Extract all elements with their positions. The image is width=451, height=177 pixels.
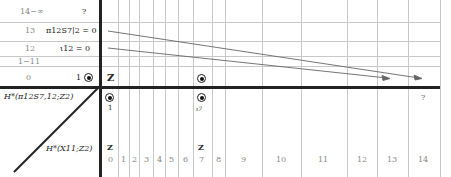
generator-dot — [197, 74, 206, 83]
corner-label-bottom: H*(X11;Z2) — [46, 145, 92, 153]
row-degree-label: 12 — [25, 45, 35, 53]
generator-label: ι7 — [196, 106, 202, 112]
column-label: 1 — [121, 156, 126, 164]
column-label: 7 — [199, 156, 204, 164]
column-label: 8 — [216, 156, 221, 164]
column-label: 6 — [183, 156, 188, 164]
column-label: 14 — [418, 156, 428, 164]
column-label: 4 — [157, 156, 162, 164]
row-entry: 1 — [76, 74, 81, 82]
generator-dot — [105, 93, 114, 102]
generator-dot — [197, 93, 206, 102]
row-degree-label: 13 — [25, 27, 35, 35]
row-entry: ? — [82, 8, 86, 16]
column-label: 2 — [132, 156, 137, 164]
column-label: 11 — [318, 156, 328, 164]
column-label: 0 — [108, 156, 113, 164]
column-label: 10 — [276, 156, 286, 164]
row-entry: ι12 = 0 — [60, 45, 90, 53]
differential-arrow — [108, 31, 422, 81]
column-label: 13 — [387, 156, 397, 164]
generator-Z: Z — [107, 73, 114, 83]
column-label: 12 — [357, 156, 367, 164]
row-degree-label: 0 — [26, 74, 31, 82]
generator-dot — [84, 73, 93, 82]
column-label: 5 — [169, 156, 174, 164]
row-entry: π12S7|2 = 0 — [46, 27, 97, 35]
row-degree-label: 14−∞ — [20, 8, 44, 16]
spectral-sequence-diagram: 14−∞ ? 13 π12S7|2 = 0 12 ι12 = 0 1−11 0 … — [0, 0, 451, 177]
generator-label: ? — [421, 94, 425, 102]
corner-label-top: H*(π12S7,12;Z2) — [4, 93, 73, 101]
generator-label: 1 — [108, 105, 112, 112]
row-degree-label: 1−11 — [18, 58, 40, 66]
generator-Z: Z — [107, 143, 113, 151]
column-label: 9 — [241, 156, 246, 164]
generator-Z: Z — [198, 143, 204, 151]
column-label: 3 — [144, 156, 149, 164]
